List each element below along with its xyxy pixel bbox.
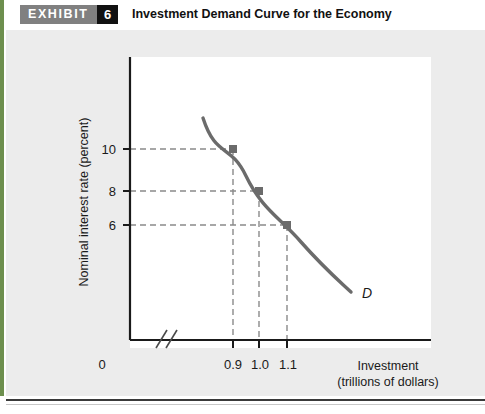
investment-demand-chart: 10 8 6 0.9 1.0 1.1 0 D Nominal interest … [6,30,485,396]
origin-label: 0 [98,357,105,372]
x-axis-ticks [233,340,287,348]
figure-frame: 10 8 6 0.9 1.0 1.1 0 D Nominal interest … [6,30,485,396]
guide-lines-horizontal [130,149,287,225]
data-point-2 [283,221,291,229]
exhibit-number-badge: 6 [97,5,118,24]
y-tick-label-10: 10 [102,142,116,157]
x-tick-label-0-9: 0.9 [224,357,242,372]
bottom-rule [6,399,485,401]
y-tick-label-6: 6 [109,218,116,233]
page-title: Investment Demand Curve for the Economy [132,5,392,24]
exhibit-header: EXHIBIT 6 Investment Demand Curve for th… [6,0,485,30]
data-point-1 [255,187,263,195]
y-tick-label-8: 8 [109,184,116,199]
data-point-markers [229,145,291,229]
curve-label-d: D [362,285,372,301]
bottom-rule-secondary [6,404,485,405]
x-tick-label-1-0: 1.0 [251,357,269,372]
y-axis-title: Nominal interest rate (percent) [77,118,91,287]
guide-lines-vertical [233,149,287,340]
data-point-0 [229,145,237,153]
x-axis-subtitle: (trillions of dollars) [337,375,438,389]
demand-curve [203,118,351,292]
x-tick-label-1-1: 1.1 [279,357,297,372]
x-axis-title: Investment [357,359,419,373]
exhibit-page: EXHIBIT 6 Investment Demand Curve for th… [0,0,485,414]
exhibit-tag: EXHIBIT [20,5,97,24]
